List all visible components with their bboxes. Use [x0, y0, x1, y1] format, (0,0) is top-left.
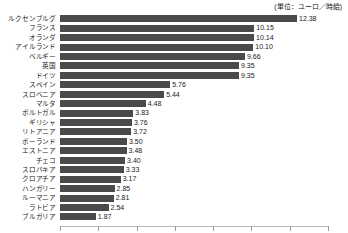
category-label: マルタ — [0, 99, 56, 108]
bar-row: ラトビア2.54 — [0, 203, 348, 212]
bar-row: ルクセンブルグ12.38 — [0, 14, 348, 23]
bar-value-label: 12.38 — [297, 14, 317, 23]
bar-row: ベルギー9.66 — [0, 52, 348, 61]
bar-value-label: 3.17 — [121, 174, 137, 183]
category-label: エストニア — [0, 146, 56, 155]
category-label: オランダ — [0, 33, 56, 42]
bar-row: ギリシャ3.76 — [0, 118, 348, 127]
category-label: ベルギー — [0, 52, 56, 61]
bar-row: ルーマニア2.81 — [0, 193, 348, 202]
bar — [60, 44, 253, 51]
unit-note: (単位：ユーロ／時給) — [274, 2, 342, 12]
bar-track: 3.48 — [60, 146, 348, 155]
bar — [60, 185, 115, 192]
bar-value-label: 2.81 — [114, 193, 130, 202]
category-label: ギリシャ — [0, 118, 56, 127]
bar-value-label: 5.44 — [164, 90, 180, 99]
axis-tick — [98, 226, 99, 231]
bar-row: フランス10.15 — [0, 23, 348, 32]
category-label: ポーランド — [0, 137, 56, 146]
bar — [60, 34, 254, 41]
bar-row: スロバキア3.33 — [0, 165, 348, 174]
axis-tick — [60, 226, 61, 231]
axis-tick — [251, 226, 252, 231]
bar-track: 9.66 — [60, 52, 348, 61]
bar — [60, 147, 127, 154]
bar — [60, 176, 121, 183]
plot-area: ルクセンブルグ12.38フランス10.15オランダ10.14アイルランド10.1… — [0, 14, 348, 226]
bar-value-label: 2.85 — [115, 184, 131, 193]
bar-row: スペイン5.76 — [0, 80, 348, 89]
bar-row: マルタ4.48 — [0, 99, 348, 108]
bar — [60, 166, 124, 173]
bar-value-label: 3.48 — [127, 146, 143, 155]
bar-track: 5.76 — [60, 80, 348, 89]
bar — [60, 53, 245, 60]
bar-track: 3.33 — [60, 165, 348, 174]
bar-row: チェコ3.40 — [0, 156, 348, 165]
bar-track: 2.81 — [60, 193, 348, 202]
bar — [60, 100, 146, 107]
bar-value-label: 3.83 — [133, 108, 149, 117]
bar-value-label: 9.35 — [239, 71, 255, 80]
bar — [60, 119, 132, 126]
bar — [60, 62, 239, 69]
x-axis — [60, 226, 328, 233]
bar — [60, 15, 297, 22]
bar — [60, 213, 96, 220]
bar-row: リトアニア3.72 — [0, 127, 348, 136]
axis-tick — [328, 226, 329, 231]
bar-row: ドイツ9.35 — [0, 71, 348, 80]
category-label: スロベニア — [0, 90, 56, 99]
bar-track: 3.17 — [60, 174, 348, 183]
bar-value-label: 10.14 — [254, 33, 274, 42]
category-label: ルーマニア — [0, 193, 56, 202]
bar-track: 3.72 — [60, 127, 348, 136]
category-label: ドイツ — [0, 71, 56, 80]
bar-track: 10.15 — [60, 23, 348, 32]
bar-row: アイルランド10.10 — [0, 42, 348, 51]
bar — [60, 110, 133, 117]
category-label: アイルランド — [0, 42, 56, 51]
category-label: ポルトガル — [0, 108, 56, 117]
bar-track: 3.50 — [60, 137, 348, 146]
bar-row: オランダ10.14 — [0, 33, 348, 42]
bar-row: ブルガリア1.87 — [0, 212, 348, 221]
bar-row: ポルトガル3.83 — [0, 108, 348, 117]
bar — [60, 195, 114, 202]
bar-row: ハンガリー2.85 — [0, 184, 348, 193]
axis-tick — [175, 226, 176, 231]
bar-row: 英国9.35 — [0, 61, 348, 70]
bar-value-label: 10.15 — [254, 23, 274, 32]
bar-track: 3.83 — [60, 108, 348, 117]
bar-track: 10.14 — [60, 33, 348, 42]
category-label: スロバキア — [0, 165, 56, 174]
bar — [60, 157, 125, 164]
axis-tick — [213, 226, 214, 231]
bar-value-label: 2.54 — [109, 203, 125, 212]
bar-track: 3.76 — [60, 118, 348, 127]
bar — [60, 25, 254, 32]
axis-line — [60, 226, 328, 227]
bar-track: 2.54 — [60, 203, 348, 212]
bar-value-label: 9.66 — [245, 52, 261, 61]
axis-tick — [137, 226, 138, 231]
category-label: スペイン — [0, 80, 56, 89]
bar-value-label: 3.72 — [131, 127, 147, 136]
bar-track: 9.35 — [60, 71, 348, 80]
bar-value-label: 3.33 — [124, 165, 140, 174]
bar-track: 4.48 — [60, 99, 348, 108]
bar-track: 2.85 — [60, 184, 348, 193]
bar-track: 10.10 — [60, 42, 348, 51]
category-label: ルクセンブルグ — [0, 14, 56, 23]
bar-value-label: 3.50 — [127, 137, 143, 146]
category-label: フランス — [0, 23, 56, 32]
bar-track: 5.44 — [60, 90, 348, 99]
bar-track: 3.40 — [60, 156, 348, 165]
category-label: チェコ — [0, 156, 56, 165]
category-label: クロアチア — [0, 174, 56, 183]
bar — [60, 72, 239, 79]
category-label: ブルガリア — [0, 212, 56, 221]
bar — [60, 81, 170, 88]
bar — [60, 91, 164, 98]
